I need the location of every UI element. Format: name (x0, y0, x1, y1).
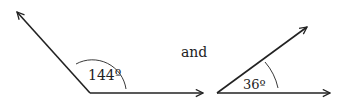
ray-arrow (17, 12, 90, 93)
angle-diagram: 144º 36º and (0, 0, 345, 112)
angle-arc (265, 62, 278, 88)
angle-label-144: 144º (88, 67, 121, 83)
angle-diagram-graphic (0, 0, 345, 112)
angle-36 (217, 27, 330, 93)
angle-label-36: 36º (243, 77, 266, 92)
connector-text: and (181, 44, 207, 60)
